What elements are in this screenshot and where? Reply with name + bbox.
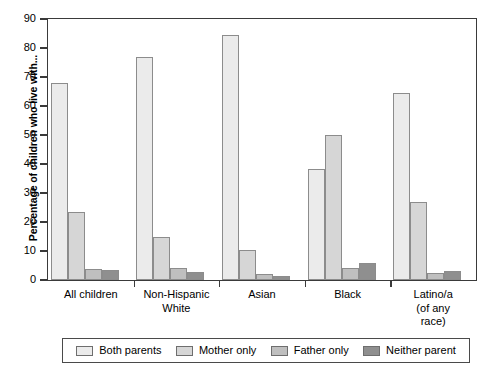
legend-item: Both parents bbox=[76, 345, 161, 356]
bar bbox=[136, 57, 153, 280]
y-axis-tick-label: 50 bbox=[0, 129, 36, 140]
bar bbox=[273, 276, 290, 280]
legend-items: Both parentsMother onlyFather onlyNeithe… bbox=[63, 339, 469, 362]
bar bbox=[410, 202, 427, 280]
x-axis-category-label: Asian bbox=[219, 288, 305, 302]
bar bbox=[359, 263, 376, 280]
legend-label: Both parents bbox=[99, 345, 161, 356]
bar bbox=[427, 273, 444, 280]
bar-group bbox=[222, 19, 290, 280]
legend-swatch bbox=[271, 346, 288, 356]
x-axis-tick bbox=[134, 281, 135, 287]
bar-group bbox=[308, 19, 376, 280]
bar bbox=[239, 250, 256, 280]
bar-group bbox=[136, 19, 204, 280]
bar bbox=[393, 93, 410, 280]
legend: Both parentsMother onlyFather onlyNeithe… bbox=[62, 338, 470, 363]
x-axis-tick bbox=[305, 281, 306, 287]
bar-groups bbox=[48, 19, 476, 280]
bar bbox=[222, 35, 239, 280]
y-axis-tick-label: 40 bbox=[0, 158, 36, 169]
y-axis-tick-label: 30 bbox=[0, 187, 36, 198]
bar-group bbox=[51, 19, 119, 280]
x-axis-tick bbox=[390, 281, 391, 287]
y-axis-title: Percentage of children who live with... bbox=[27, 18, 39, 278]
bar bbox=[51, 83, 68, 280]
legend-item: Mother only bbox=[176, 345, 256, 356]
y-axis-tick-label: 80 bbox=[0, 42, 36, 53]
x-axis-category-label: Black bbox=[305, 288, 391, 302]
y-axis-tick-label: 10 bbox=[0, 245, 36, 256]
bar bbox=[325, 135, 342, 280]
legend-item: Father only bbox=[271, 345, 349, 356]
legend-label: Father only bbox=[294, 345, 349, 356]
bar-chart-figure: Percentage of children who live with... … bbox=[0, 0, 491, 370]
x-axis-category-label: All children bbox=[48, 288, 134, 302]
legend-swatch bbox=[76, 346, 93, 356]
legend-item: Neither parent bbox=[363, 345, 456, 356]
bar bbox=[308, 169, 325, 280]
x-axis-labels: All childrenNon-HispanicWhiteAsianBlackL… bbox=[48, 288, 476, 338]
y-axis-tick-label: 60 bbox=[0, 100, 36, 111]
legend-label: Mother only bbox=[199, 345, 256, 356]
legend-swatch bbox=[176, 346, 193, 356]
y-axis-tick-label: 90 bbox=[0, 13, 36, 24]
bar bbox=[170, 268, 187, 280]
bar bbox=[153, 237, 170, 280]
x-axis-tick bbox=[219, 281, 220, 287]
bar bbox=[444, 271, 461, 280]
legend-label: Neither parent bbox=[386, 345, 456, 356]
x-axis-category-label: Non-HispanicWhite bbox=[134, 288, 220, 315]
bar bbox=[102, 270, 119, 280]
bar bbox=[342, 268, 359, 280]
bar-group bbox=[393, 19, 461, 280]
bar bbox=[187, 272, 204, 280]
y-axis-tick-label: 0 bbox=[0, 274, 36, 285]
bar bbox=[85, 269, 102, 280]
y-axis-tick-label: 20 bbox=[0, 216, 36, 227]
x-axis-category-label: Latino/a(of anyrace) bbox=[390, 288, 476, 329]
y-axis-tick-label: 70 bbox=[0, 71, 36, 82]
legend-swatch bbox=[363, 346, 380, 356]
bar bbox=[256, 274, 273, 280]
bar bbox=[68, 212, 85, 280]
